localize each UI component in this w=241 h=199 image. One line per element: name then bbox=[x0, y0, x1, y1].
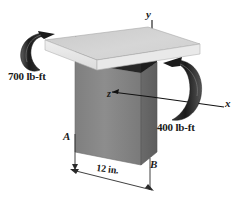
figure-canvas bbox=[0, 0, 241, 199]
axis-label-z: z bbox=[107, 89, 111, 99]
point-label-b: B bbox=[150, 159, 157, 170]
moment-label-400: 400 lb-ft bbox=[157, 122, 195, 133]
moment-label-700: 700 lb-ft bbox=[8, 71, 46, 82]
mechanics-figure: 700 lb-ft 400 lb-ft y x z A B 12 in. bbox=[0, 0, 241, 199]
point-label-a: A bbox=[63, 131, 70, 142]
axis-label-y: y bbox=[146, 9, 151, 20]
axis-label-x: x bbox=[225, 98, 231, 109]
moment-arrow-400 bbox=[163, 57, 202, 120]
wall-block bbox=[75, 62, 157, 165]
